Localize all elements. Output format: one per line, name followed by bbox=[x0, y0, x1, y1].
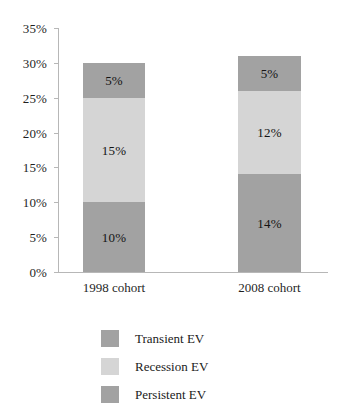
bar-segment-label-transient-1998: 5% bbox=[105, 74, 123, 87]
bar-stack-2008: 5% 12% 14% bbox=[238, 56, 301, 272]
bar-segment-transient-1998[interactable]: 5% bbox=[83, 63, 145, 98]
y-tick-label-20: 20% bbox=[23, 126, 47, 139]
y-tick-5: 5% bbox=[54, 237, 59, 238]
legend-swatch-transient-icon bbox=[101, 330, 119, 347]
bar-segment-recession-1998[interactable]: 15% bbox=[83, 98, 145, 203]
legend-item-transient[interactable]: Transient EV bbox=[101, 330, 208, 347]
y-tick-25: 25% bbox=[54, 98, 59, 99]
y-tick-15: 15% bbox=[54, 167, 59, 168]
bar-segment-label-recession-2008: 12% bbox=[257, 126, 281, 139]
bar-group-1998[interactable]: 5% 15% 10% 1998 cohort bbox=[83, 63, 145, 272]
bar-segment-transient-2008[interactable]: 5% bbox=[238, 56, 301, 91]
y-tick-label-15: 15% bbox=[23, 161, 47, 174]
y-tick-label-10: 10% bbox=[23, 196, 47, 209]
x-tick-label-1998: 1998 cohort bbox=[83, 281, 145, 294]
bar-segment-label-persistent-1998: 10% bbox=[102, 231, 126, 244]
x-tick-label-2008: 2008 cohort bbox=[238, 281, 300, 294]
chart-legend: Transient EV Recession EV Persistent EV bbox=[101, 330, 208, 403]
bar-segment-persistent-2008[interactable]: 14% bbox=[238, 174, 301, 272]
y-tick-0: 0% bbox=[54, 272, 59, 273]
y-tick-label-5: 5% bbox=[29, 231, 47, 244]
y-tick-20: 20% bbox=[54, 133, 59, 134]
y-tick-label-30: 30% bbox=[23, 56, 47, 69]
bar-group-2008[interactable]: 5% 12% 14% 2008 cohort bbox=[238, 56, 301, 272]
legend-item-recession[interactable]: Recession EV bbox=[101, 358, 208, 375]
bar-segment-label-persistent-2008: 14% bbox=[257, 217, 281, 230]
legend-label-persistent: Persistent EV bbox=[135, 388, 206, 401]
y-tick-label-35: 35% bbox=[23, 22, 47, 35]
y-tick-10: 10% bbox=[54, 202, 59, 203]
y-tick-label-0: 0% bbox=[29, 266, 47, 279]
y-tick-35: 35% bbox=[54, 28, 59, 29]
legend-swatch-recession-icon bbox=[101, 358, 119, 375]
legend-label-transient: Transient EV bbox=[135, 332, 204, 345]
legend-item-persistent[interactable]: Persistent EV bbox=[101, 386, 208, 403]
bar-segment-label-recession-1998: 15% bbox=[102, 144, 126, 157]
stacked-bar-chart: 0% 5% 10% 15% 20% 25% 30% 35% 5% bbox=[0, 0, 347, 420]
legend-swatch-persistent-icon bbox=[101, 386, 119, 403]
legend-label-recession: Recession EV bbox=[135, 360, 208, 373]
bar-segment-recession-2008[interactable]: 12% bbox=[238, 91, 301, 175]
bar-segment-label-transient-2008: 5% bbox=[261, 67, 279, 80]
bar-stack-1998: 5% 15% 10% bbox=[83, 63, 145, 272]
x-axis-line bbox=[58, 272, 328, 273]
bar-segment-persistent-1998[interactable]: 10% bbox=[83, 202, 145, 272]
y-tick-30: 30% bbox=[54, 63, 59, 64]
plot-area: 0% 5% 10% 15% 20% 25% 30% 35% 5% bbox=[58, 28, 328, 273]
y-tick-label-25: 25% bbox=[23, 91, 47, 104]
